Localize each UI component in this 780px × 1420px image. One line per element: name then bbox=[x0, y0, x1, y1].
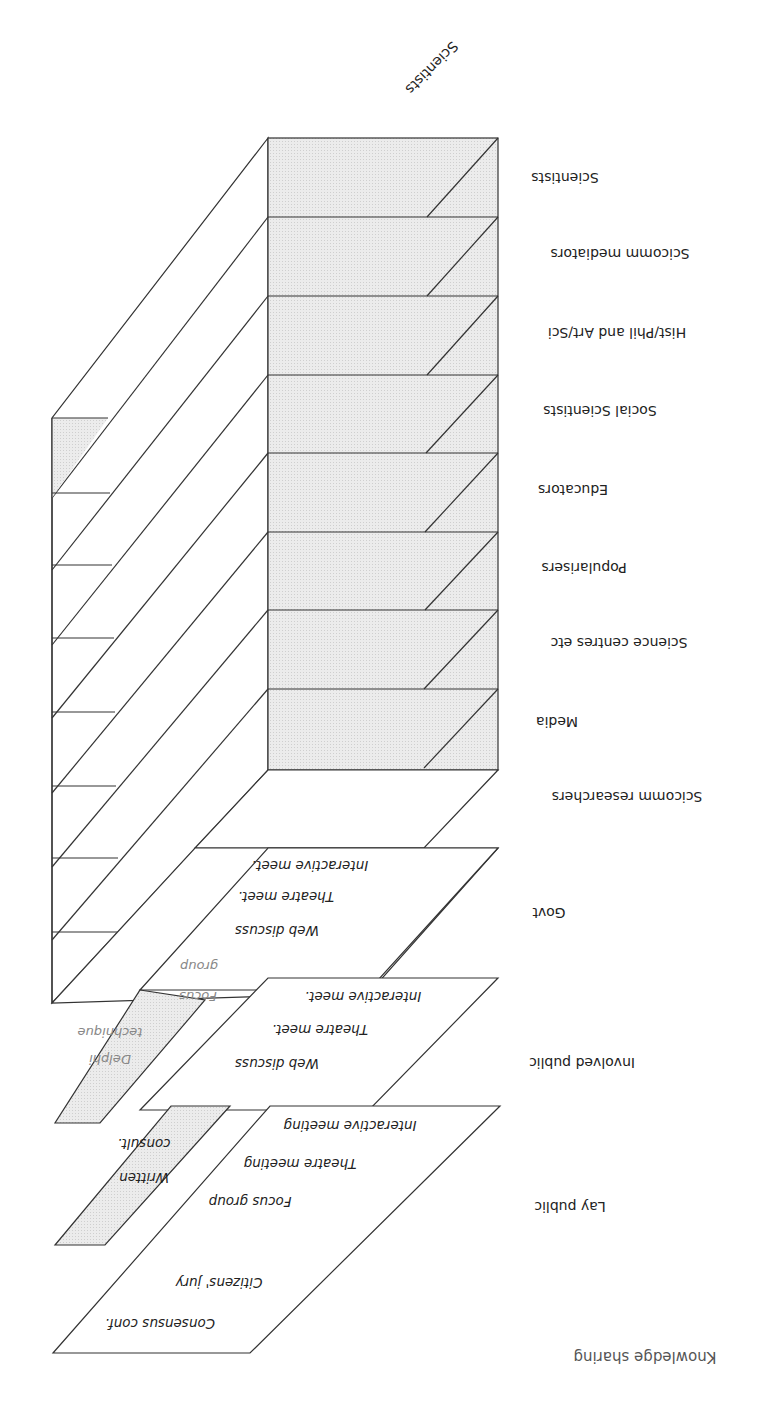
row-label-lay-public: Lay public bbox=[534, 1199, 605, 1215]
method-citizens-jury: Citizens' jury bbox=[174, 1275, 262, 1291]
row-label-social-scientists: Social Scientists bbox=[543, 403, 656, 419]
method-theatre-meet-involved: Theatre meet. bbox=[272, 1022, 368, 1038]
row-label-govt: Govt bbox=[532, 905, 566, 921]
diagram-graphic: Scientists Scicomm mediators Hist/Phil a… bbox=[0, 0, 780, 1420]
row-label-science-centres: Science centres etc bbox=[551, 635, 688, 651]
method-theatre-meet-govt: Theatre meet. bbox=[238, 889, 334, 905]
row-label-scicomm-researchers: Scicomm researchers bbox=[552, 789, 703, 805]
method-consensus-conf: Consensus conf. bbox=[105, 1316, 215, 1332]
method-web-discuss-govt: Web discuss bbox=[235, 923, 319, 939]
row-label-popularisers: Popularisers bbox=[541, 560, 626, 576]
row-label-educators: Educators bbox=[538, 482, 608, 498]
method-written-consult-0: Written bbox=[119, 1170, 169, 1186]
method-focus-group: Focus group bbox=[209, 1194, 292, 1210]
row-label-media: Media bbox=[536, 714, 578, 730]
method-written-consult-1: consult. bbox=[117, 1136, 170, 1152]
knowledge-sharing-diagram: Scientists Scicomm mediators Hist/Phil a… bbox=[0, 0, 780, 1420]
diagram-title: Knowledge sharing bbox=[573, 1348, 716, 1366]
column-header-scientists: Scientists bbox=[403, 39, 462, 98]
method-focus-group-govt-1: group bbox=[180, 959, 218, 974]
row-label-scientists: Scientists bbox=[531, 170, 598, 186]
row-label-involved-public: Involved public bbox=[529, 1055, 635, 1071]
row-label-scicomm-mediators: Scicomm mediators bbox=[550, 246, 689, 262]
method-interactive-meet-govt: Interactive meet. bbox=[252, 858, 368, 874]
method-theatre-meeting: Theatre meeting bbox=[243, 1156, 356, 1172]
method-interactive-meet-involved: Interactive meet. bbox=[305, 989, 421, 1005]
method-web-discuss-involved: Web discuss bbox=[235, 1056, 319, 1072]
method-delphi-technique-0: Delphi bbox=[89, 1052, 131, 1067]
row-labels: Scientists Scicomm mediators Hist/Phil a… bbox=[529, 170, 702, 1215]
method-delphi-technique-1: technique bbox=[78, 1025, 143, 1040]
row-label-hist-phil: Hist/Phil and Art/Sci bbox=[548, 325, 686, 341]
method-focus-group-govt-0: Focus bbox=[179, 989, 217, 1004]
method-interactive-meeting: Interactive meeting bbox=[283, 1118, 416, 1134]
